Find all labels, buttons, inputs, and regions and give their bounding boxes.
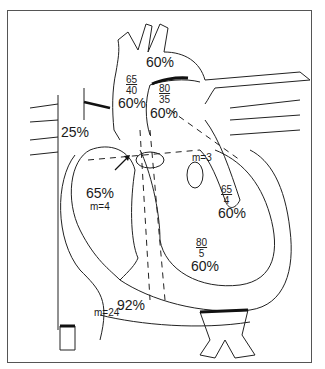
left-ventricle-saturation: 60% [218, 206, 246, 220]
right-ventricle-pressure: 80 5 [196, 237, 207, 259]
left-atrium-pressure: 65 4 [221, 184, 232, 206]
right-atrium-saturation: 65% [86, 186, 114, 200]
ascending-aorta-pressure: 65 40 [126, 74, 137, 96]
ivc-mean-pressure: m=24 [94, 308, 119, 318]
ascending-aorta-systolic: 65 [126, 74, 137, 85]
descending-aorta-bottom [200, 310, 255, 358]
aortic-arch-saturation: 60% [146, 55, 174, 69]
svc-saturation: 25% [61, 125, 89, 139]
left-atrium-systolic: 65 [221, 184, 232, 195]
right-atrium [71, 147, 138, 280]
pulmonary-artery-saturation: 60% [150, 106, 178, 120]
ascending-aorta-saturation: 60% [118, 96, 146, 110]
ivc-bottom [60, 326, 75, 350]
pulmonary-artery-pressure: 80 35 [159, 83, 170, 105]
right-atrium-mean-pressure: m=4 [90, 202, 110, 212]
right-ventricle-systolic: 80 [196, 237, 207, 248]
pulmonary-artery-systolic: 80 [159, 83, 170, 94]
left-atrium [200, 120, 240, 208]
ivc-saturation: 92% [117, 298, 145, 312]
pulmonary-artery-diastolic: 35 [159, 94, 170, 105]
right-ventricle-saturation: 60% [191, 259, 219, 273]
ascending-aorta [113, 40, 120, 140]
left-atrium-mean-pressure: m=3 [192, 153, 212, 163]
